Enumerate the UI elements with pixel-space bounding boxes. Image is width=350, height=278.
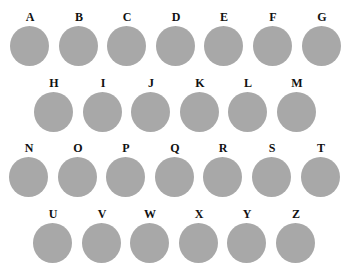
- gray-circle[interactable]: [131, 92, 170, 132]
- gray-circle[interactable]: [253, 26, 292, 66]
- circle-item-h[interactable]: H: [34, 77, 74, 133]
- circle-label: T: [301, 142, 341, 154]
- circle-item-q[interactable]: Q: [155, 142, 195, 198]
- gray-circle[interactable]: [130, 223, 169, 263]
- circle-item-k[interactable]: K: [180, 77, 220, 133]
- circle-label: L: [228, 77, 268, 89]
- gray-circle[interactable]: [180, 92, 219, 132]
- circle-label: G: [302, 11, 342, 23]
- gray-circle[interactable]: [228, 92, 267, 132]
- circle-label: M: [277, 77, 317, 89]
- gray-circle[interactable]: [107, 26, 146, 66]
- circle-item-b[interactable]: B: [59, 11, 99, 67]
- circle-label: O: [58, 142, 98, 154]
- circle-label: E: [204, 11, 244, 23]
- gray-circle[interactable]: [58, 157, 97, 197]
- circle-item-x[interactable]: X: [179, 208, 219, 264]
- gray-circle[interactable]: [276, 223, 315, 263]
- circle-item-o[interactable]: O: [58, 142, 98, 198]
- gray-circle[interactable]: [82, 223, 121, 263]
- gray-circle[interactable]: [34, 92, 73, 132]
- circle-label: N: [9, 142, 49, 154]
- circle-item-f[interactable]: F: [253, 11, 293, 67]
- circle-item-s[interactable]: S: [252, 142, 292, 198]
- circle-label: Z: [276, 208, 316, 220]
- circle-item-r[interactable]: R: [203, 142, 243, 198]
- gray-circle[interactable]: [302, 26, 341, 66]
- circle-item-v[interactable]: V: [82, 208, 122, 264]
- circle-label: I: [83, 77, 123, 89]
- circle-item-p[interactable]: P: [106, 142, 146, 198]
- circle-item-u[interactable]: U: [33, 208, 73, 264]
- gray-circle[interactable]: [10, 26, 49, 66]
- gray-circle[interactable]: [204, 26, 243, 66]
- circle-item-c[interactable]: C: [107, 11, 147, 67]
- circle-item-j[interactable]: J: [131, 77, 171, 133]
- gray-circle[interactable]: [252, 157, 291, 197]
- circle-label: K: [180, 77, 220, 89]
- circle-label: P: [106, 142, 146, 154]
- circle-item-a[interactable]: A: [10, 11, 50, 67]
- circle-label: X: [179, 208, 219, 220]
- circle-label: W: [130, 208, 170, 220]
- circle-label: H: [34, 77, 74, 89]
- gray-circle[interactable]: [277, 92, 316, 132]
- gray-circle[interactable]: [179, 223, 218, 263]
- circle-label: D: [156, 11, 196, 23]
- circle-item-m[interactable]: M: [277, 77, 317, 133]
- circle-item-n[interactable]: N: [9, 142, 49, 198]
- circle-label: S: [252, 142, 292, 154]
- circle-label: Y: [227, 208, 267, 220]
- circle-label: R: [203, 142, 243, 154]
- circle-item-y[interactable]: Y: [227, 208, 267, 264]
- circle-label: B: [59, 11, 99, 23]
- circle-label: F: [253, 11, 293, 23]
- circle-item-i[interactable]: I: [83, 77, 123, 133]
- circle-label: Q: [155, 142, 195, 154]
- gray-circle[interactable]: [9, 157, 48, 197]
- circle-label: J: [131, 77, 171, 89]
- circle-item-t[interactable]: T: [301, 142, 341, 198]
- gray-circle[interactable]: [83, 92, 122, 132]
- circle-item-l[interactable]: L: [228, 77, 268, 133]
- gray-circle[interactable]: [33, 223, 72, 263]
- circle-item-d[interactable]: D: [156, 11, 196, 67]
- gray-circle[interactable]: [203, 157, 242, 197]
- gray-circle[interactable]: [155, 157, 194, 197]
- circle-item-e[interactable]: E: [204, 11, 244, 67]
- circle-label: A: [10, 11, 50, 23]
- circle-item-g[interactable]: G: [302, 11, 342, 67]
- circle-item-z[interactable]: Z: [276, 208, 316, 264]
- gray-circle[interactable]: [301, 157, 340, 197]
- gray-circle[interactable]: [59, 26, 98, 66]
- gray-circle[interactable]: [227, 223, 266, 263]
- circle-item-w[interactable]: W: [130, 208, 170, 264]
- gray-circle[interactable]: [106, 157, 145, 197]
- circle-label: U: [33, 208, 73, 220]
- circle-label: C: [107, 11, 147, 23]
- gray-circle[interactable]: [156, 26, 195, 66]
- circle-label: V: [82, 208, 122, 220]
